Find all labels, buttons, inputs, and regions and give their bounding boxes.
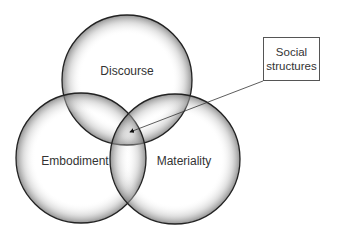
label-embodiment: Embodiment	[41, 154, 108, 168]
callout-line1: Social	[276, 45, 307, 59]
callout-box-social-structures: Social structures	[263, 37, 320, 81]
label-materiality: Materiality	[157, 154, 212, 168]
label-discourse: Discourse	[100, 64, 153, 78]
callout-line2: structures	[266, 59, 317, 73]
venn-diagram	[0, 0, 339, 229]
